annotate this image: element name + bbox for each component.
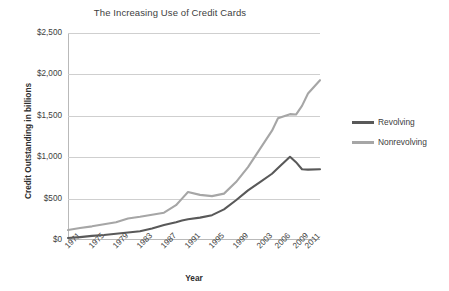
chart-title: The Increasing Use of Credit Cards [0,7,340,18]
legend-swatch-icon [352,141,374,144]
y-tick-label: $1,000 [8,152,62,161]
y-tick-label: $0 [8,235,62,244]
chart-legend: RevolvingNonrevolving [352,112,448,152]
y-tick-label: $2,500 [8,28,62,37]
credit-cards-line-chart: The Increasing Use of Credit Cards Credi… [0,0,449,291]
legend-label: Nonrevolving [378,137,427,147]
y-tick-label: $500 [8,194,62,203]
legend-label: Revolving [378,117,415,127]
series-lines [68,33,320,240]
series-line-revolving [68,157,320,238]
legend-item[interactable]: Nonrevolving [352,132,448,152]
series-line-nonrevolving [68,80,320,230]
x-axis-title: Year [68,273,320,283]
y-tick-label: $1,500 [8,111,62,120]
y-tick-label: $2,000 [8,69,62,78]
legend-swatch-icon [352,121,374,124]
legend-item[interactable]: Revolving [352,112,448,132]
